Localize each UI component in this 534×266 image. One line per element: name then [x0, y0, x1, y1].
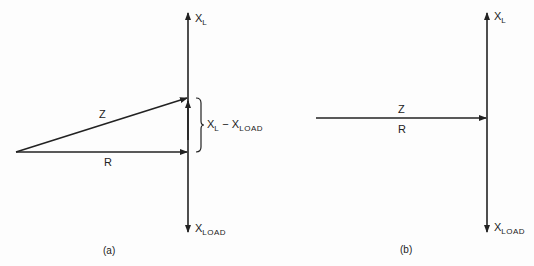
b-xl-label: XL	[494, 11, 506, 25]
b-z-label: Z	[398, 104, 405, 115]
impedance-diagrams: XL Z R XL − XLOAD XLOAD (a) XL Z R XLOAD…	[0, 0, 534, 266]
vector-drawing	[0, 0, 534, 266]
a-xl-label: XL	[195, 13, 207, 27]
diagram-a-vectors	[16, 13, 204, 232]
a-brace	[196, 98, 204, 152]
a-xload-label: XLOAD	[195, 223, 226, 237]
a-brace-label: XL − XLOAD	[207, 119, 263, 133]
b-caption: (b)	[400, 244, 412, 255]
a-r-label: R	[104, 157, 112, 168]
a-z-vector	[16, 98, 187, 152]
b-r-label: R	[398, 124, 406, 135]
a-caption: (a)	[103, 245, 115, 256]
b-xload-label: XLOAD	[494, 222, 525, 236]
a-z-label: Z	[99, 109, 106, 120]
